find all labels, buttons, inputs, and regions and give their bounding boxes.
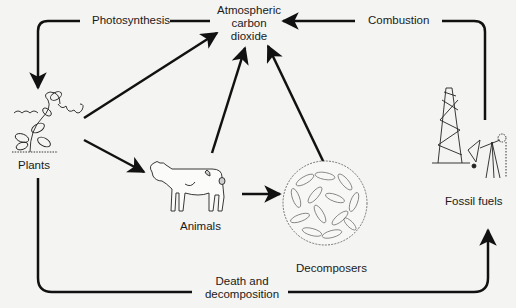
combustion-arrow <box>442 21 485 120</box>
death-decomposition-arrow <box>38 178 192 292</box>
cow-icon <box>150 162 225 212</box>
atmosphere-label-line2: carbon <box>213 17 285 30</box>
decomposers-to-atmosphere-arrow <box>268 46 324 163</box>
bacteria-icon <box>283 161 367 245</box>
plants-to-animals-arrow <box>84 140 144 172</box>
death-decomposition-line2: decomposition <box>200 288 284 301</box>
plants-to-atmosphere-arrow <box>84 33 217 118</box>
photosynthesis-label: Photosynthesis <box>92 14 170 27</box>
fossil-fuels-label: Fossil fuels <box>445 195 503 208</box>
atmosphere-label: Atmospheric carbon dioxide <box>213 4 285 43</box>
decomposers-label: Decomposers <box>296 262 367 275</box>
death-decomposition-label: Death and decomposition <box>200 275 284 301</box>
animals-label: Animals <box>180 220 221 233</box>
atmosphere-label-line1: Atmospheric <box>213 4 285 17</box>
carbon-cycle-diagram <box>0 0 516 308</box>
combustion-label: Combustion <box>368 14 429 27</box>
death-decomposition-line1: Death and <box>200 275 284 288</box>
animals-to-atmosphere-arrow <box>212 48 245 153</box>
oil-rig-icon <box>432 88 506 178</box>
plants-label: Plants <box>18 159 50 172</box>
atmosphere-label-line3: dioxide <box>213 30 285 43</box>
plant-icon <box>12 90 83 152</box>
